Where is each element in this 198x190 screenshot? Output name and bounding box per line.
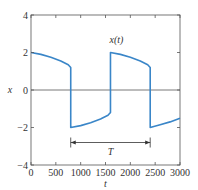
y-tick-label: −4 — [17, 160, 28, 171]
x-tick-label: 500 — [48, 167, 63, 178]
x-tick-label: 2500 — [145, 167, 165, 178]
x-tick-label: 0 — [29, 167, 34, 178]
series-label: x(t) — [108, 34, 124, 46]
y-tick-label: 2 — [23, 47, 28, 58]
x-tick-label: 3000 — [170, 167, 190, 178]
x-tick-label: 1000 — [71, 167, 91, 178]
y-tick-label: 4 — [23, 10, 28, 21]
y-tick-label: −2 — [17, 122, 28, 133]
y-tick-label: 0 — [23, 85, 28, 96]
x-axis-label: t — [104, 178, 107, 189]
period-label: T — [108, 146, 115, 157]
x-tick-label: 1500 — [96, 167, 116, 178]
x-tick-label: 2000 — [120, 167, 140, 178]
y-axis-label: x — [7, 84, 13, 95]
chart: 050010001500200025003000 −4−2024 t x x(t… — [0, 0, 198, 190]
